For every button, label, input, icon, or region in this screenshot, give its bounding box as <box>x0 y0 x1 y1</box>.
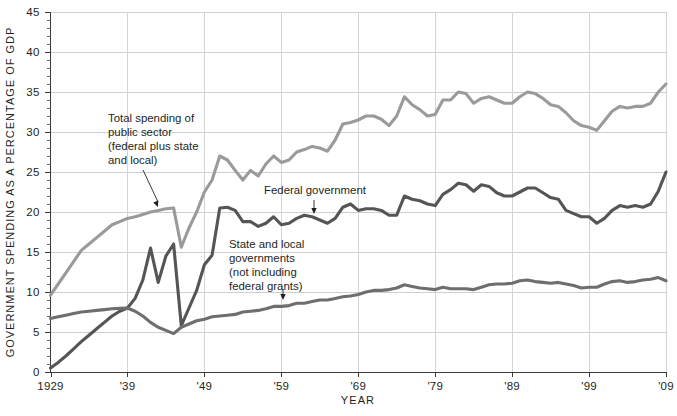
y-tick-label: 30 <box>26 126 39 138</box>
annotation-label: Federal government <box>264 184 367 196</box>
y-tick-label: 0 <box>33 366 40 378</box>
annotation-leader-line <box>143 170 158 202</box>
x-axis-tick-labels: 1929'39'49'59'69'79'89'99'09 <box>37 380 673 392</box>
x-tick-label: '79 <box>427 380 443 392</box>
y-tick-label: 25 <box>26 166 39 178</box>
y-tick-label: 40 <box>26 46 39 58</box>
x-axis-title: YEAR <box>341 394 375 406</box>
y-tick-label: 10 <box>26 286 39 298</box>
x-tick-label: '99 <box>581 380 597 392</box>
y-tick-label: 45 <box>26 6 39 18</box>
x-tick-label: '59 <box>274 380 290 392</box>
x-tick-label: '39 <box>120 380 136 392</box>
y-axis-tick-labels: 051015202530354045 <box>26 6 39 378</box>
line-chart: 051015202530354045 1929'39'49'59'69'79'8… <box>0 0 677 416</box>
annotation-leader-arrowhead <box>311 208 316 214</box>
y-tick-label: 15 <box>26 246 39 258</box>
y-tick-label: 5 <box>33 326 40 338</box>
annotation-label: Total spending ofpublic sector(federal p… <box>108 112 199 166</box>
x-tick-label: '09 <box>658 380 674 392</box>
y-axis-title: GOVERNMENT SPENDING AS A PERCENTAGE OF G… <box>4 27 16 358</box>
y-tick-label: 20 <box>26 206 39 218</box>
annotation-state-and-local: State and localgovernments(not including… <box>229 238 304 300</box>
annotation-federal-government: Federal government <box>264 184 367 214</box>
chart-container: 051015202530354045 1929'39'49'59'69'79'8… <box>0 0 677 416</box>
y-tick-label: 35 <box>26 86 39 98</box>
x-tick-label: '49 <box>197 380 213 392</box>
x-tick-label: '89 <box>504 380 520 392</box>
annotation-leader-arrowhead <box>153 200 158 207</box>
x-tick-label: '69 <box>350 380 366 392</box>
annotation-label: State and localgovernments(not including… <box>229 238 304 292</box>
annotations-group: Total spending ofpublic sector(federal p… <box>108 112 367 300</box>
x-tick-label: 1929 <box>37 380 63 392</box>
annotation-total-spending: Total spending ofpublic sector(federal p… <box>108 112 199 207</box>
